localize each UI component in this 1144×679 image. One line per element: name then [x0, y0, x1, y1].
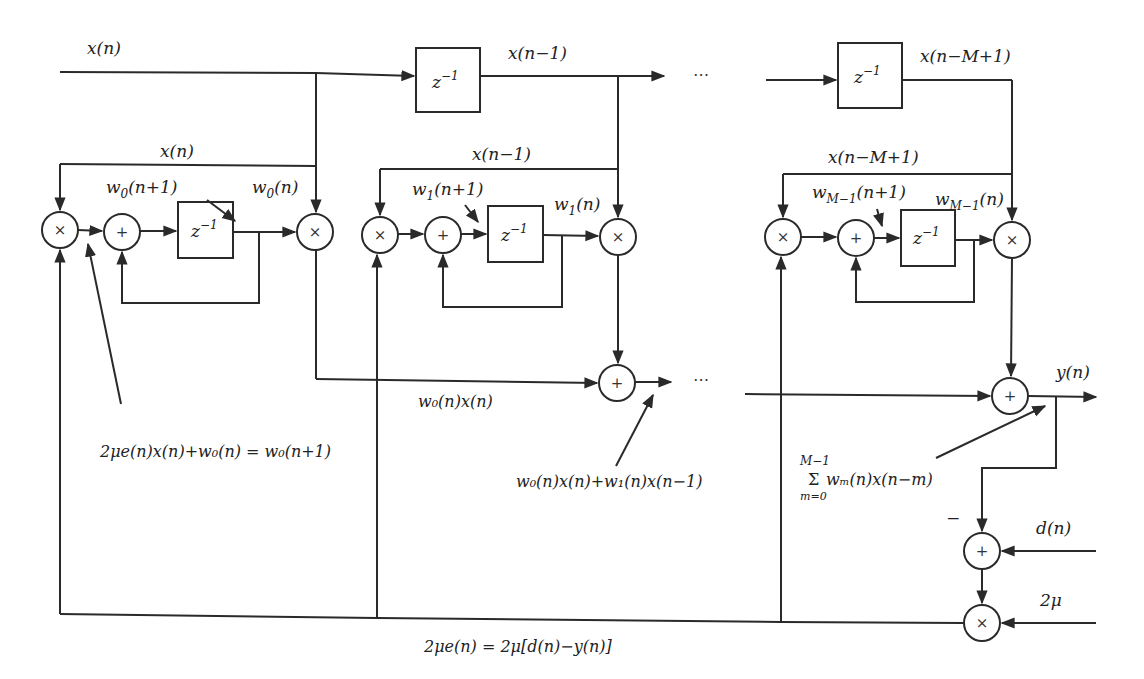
add-icon: + — [976, 542, 989, 560]
weight-now-label-0: w0(n) — [252, 177, 298, 201]
weight-next-label-1: w1(n+1) — [412, 179, 483, 203]
lms-filter-diagram: × + × × + × + × + × + + × z−1 z−1 z−1 z−… — [0, 0, 1144, 679]
multiply-icon: × — [54, 221, 67, 239]
weight-update-equation: 2μe(n)x(n)+w₀(n) = w₀(n+1) — [99, 442, 331, 461]
add-icon: + — [116, 223, 129, 241]
output-signal-label: y(n) — [1055, 362, 1090, 382]
weight-now-label-1: w1(n) — [554, 194, 600, 218]
annotation-pointer-partial-sum — [616, 395, 653, 466]
minus-sign: − — [946, 508, 960, 528]
add-icon: + — [850, 229, 863, 247]
sum-symbol: Σ — [808, 470, 819, 489]
sum-upper-limit: M−1 — [799, 454, 830, 468]
multiply-icon: × — [309, 223, 322, 241]
multiply-icon: × — [1006, 231, 1019, 249]
input-signal-label: x(n) — [87, 38, 121, 58]
multiply-icon: × — [777, 228, 790, 246]
multiply-icon: × — [976, 614, 989, 632]
tap-input-label-1: x(n−1) — [472, 144, 531, 164]
annotation-pointer-update — [88, 244, 121, 404]
first-product-label: w₀(n)x(n) — [418, 392, 493, 411]
weight-next-label-M: wM−1(n+1) — [812, 182, 906, 206]
sum-lower-limit: m=0 — [800, 490, 827, 503]
step-size-label: 2μ — [1039, 590, 1062, 610]
ellipsis-mid: ⋯ — [693, 65, 709, 84]
error-feedback-equation: 2μe(n) = 2μ[d(n)−y(n)] — [423, 637, 613, 656]
pointer-w1-next — [465, 205, 478, 222]
pointer-wM-next — [877, 209, 882, 226]
stage-M-minus-1 — [745, 80, 1096, 622]
multiply-icon: × — [612, 228, 625, 246]
add-icon: + — [611, 374, 624, 392]
add-icon: + — [437, 226, 450, 244]
annotation-pointer-output-sum — [936, 406, 1045, 458]
tap-input-label-M: x(n−M+1) — [828, 147, 919, 167]
add-icon: + — [1004, 387, 1017, 405]
sum-body: wₘ(n)x(n−m) — [826, 470, 933, 489]
partial-sum-equation: w₀(n)x(n)+w₁(n)x(n−1) — [516, 472, 702, 491]
delayed-signal-label-1: x(n−1) — [508, 43, 567, 63]
ellipsis-top: ⋯ — [693, 370, 709, 389]
delayed-signal-label-M: x(n−M+1) — [920, 46, 1011, 66]
multiply-icon: × — [374, 226, 387, 244]
weight-next-label-0: w0(n+1) — [106, 177, 177, 201]
desired-signal-label: d(n) — [1036, 518, 1071, 538]
error-path — [60, 396, 1096, 641]
tap-input-label-0: x(n) — [160, 141, 194, 161]
